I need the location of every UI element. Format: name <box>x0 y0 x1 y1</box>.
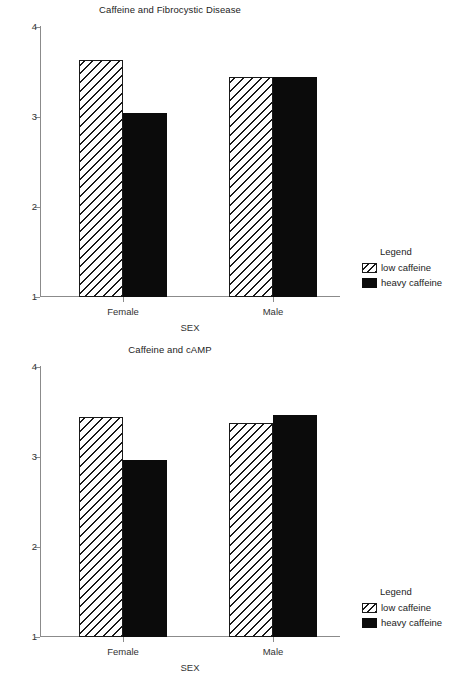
x-axis-title: SEX <box>40 662 340 673</box>
plot-area: 1234 FemaleMale SEX <box>40 27 340 297</box>
y-tick-label: 1 <box>32 292 37 302</box>
x-tick-mark <box>273 297 274 302</box>
y-axis-line <box>40 366 41 637</box>
bar <box>79 417 123 638</box>
bar <box>123 460 167 637</box>
chart-title: Caffeine and cAMP <box>0 344 340 355</box>
legend-label: heavy caffeine <box>381 277 442 288</box>
y-tick-label: 4 <box>32 362 37 372</box>
x-tick-label: Male <box>263 646 284 657</box>
x-tick-label: Female <box>107 306 139 317</box>
legend-label: heavy caffeine <box>381 617 442 628</box>
legend-item-heavy-caffeine[interactable]: heavy caffeine <box>362 277 442 288</box>
legend-label: low caffeine <box>381 602 431 613</box>
y-tick-label: 3 <box>32 112 37 122</box>
legend-item-heavy-caffeine[interactable]: heavy caffeine <box>362 617 442 628</box>
legend-item-low-caffeine[interactable]: low caffeine <box>362 262 442 273</box>
x-tick-label: Female <box>107 646 139 657</box>
x-tick-mark <box>123 297 124 302</box>
bar <box>79 60 123 297</box>
y-axis-line <box>40 26 41 297</box>
bar <box>123 113 167 297</box>
legend-title: Legend <box>380 586 442 597</box>
legend-swatch-solid-icon <box>362 618 377 628</box>
legend-label: low caffeine <box>381 262 431 273</box>
legend: Legend low caffeine heavy caffeine <box>362 586 442 632</box>
x-tick-label: Male <box>263 306 284 317</box>
x-tick-mark <box>273 637 274 642</box>
bar <box>229 77 273 297</box>
chart-panel-camp: Caffeine and cAMP 1234 FemaleMale SEX Le… <box>0 340 472 679</box>
y-tick-label: 1 <box>32 632 37 642</box>
legend-title: Legend <box>380 246 442 257</box>
bar <box>229 423 273 637</box>
y-tick-label: 4 <box>32 22 37 32</box>
legend-item-low-caffeine[interactable]: low caffeine <box>362 602 442 613</box>
y-tick-label: 3 <box>32 452 37 462</box>
y-tick-label: 2 <box>32 542 37 552</box>
x-tick-mark <box>123 637 124 642</box>
x-axis-title: SEX <box>40 322 340 333</box>
legend-swatch-solid-icon <box>362 278 377 288</box>
legend-swatch-hatch-icon <box>362 603 377 613</box>
y-tick-label: 2 <box>32 202 37 212</box>
plot-area: 1234 FemaleMale SEX <box>40 367 340 637</box>
chart-title: Caffeine and Fibrocystic Disease <box>0 4 340 15</box>
bar <box>273 415 317 637</box>
legend: Legend low caffeine heavy caffeine <box>362 246 442 292</box>
legend-swatch-hatch-icon <box>362 263 377 273</box>
bar <box>273 77 317 297</box>
chart-panel-fibrocystic-disease: Caffeine and Fibrocystic Disease 1234 Fe… <box>0 0 472 339</box>
